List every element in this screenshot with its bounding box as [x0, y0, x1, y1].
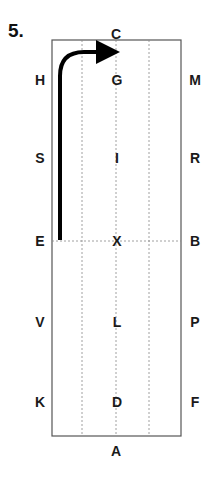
marker-f: F: [191, 395, 200, 409]
marker-m: M: [189, 73, 201, 87]
marker-l: L: [113, 315, 122, 329]
marker-b: B: [190, 234, 200, 248]
marker-i: I: [115, 151, 119, 165]
marker-x: X: [112, 234, 121, 248]
marker-e: E: [35, 234, 44, 248]
marker-d: D: [112, 395, 122, 409]
marker-h: H: [35, 73, 45, 87]
marker-g: G: [112, 73, 123, 87]
marker-p: P: [190, 315, 199, 329]
marker-a: A: [111, 444, 121, 458]
marker-v: V: [35, 315, 44, 329]
marker-c: C: [111, 27, 121, 41]
marker-s: S: [35, 151, 44, 165]
marker-r: R: [190, 151, 200, 165]
marker-k: K: [35, 395, 45, 409]
route-arrow: [60, 52, 108, 240]
arena-diagram: [0, 0, 208, 479]
